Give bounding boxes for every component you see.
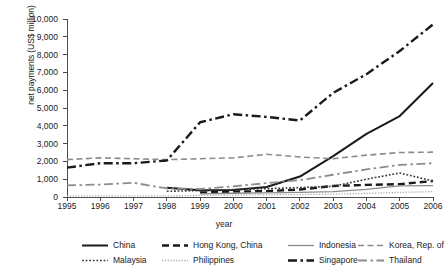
legend-swatch-icon <box>162 255 188 266</box>
legend-item-china[interactable]: China <box>82 239 135 252</box>
x-tick-label: 2002 <box>290 201 309 211</box>
x-tick-label: 2005 <box>390 201 409 211</box>
legend-item-malaysia[interactable]: Malaysia <box>82 254 147 267</box>
legend-swatch-icon <box>82 255 108 266</box>
series-line-singapore <box>67 24 433 167</box>
legend-item-philippines[interactable]: Philippines <box>162 254 234 267</box>
legend-swatch-icon <box>82 240 108 251</box>
legend-swatch-icon <box>358 240 384 251</box>
x-tick-label: 1998 <box>157 201 176 211</box>
legend-swatch-icon <box>162 240 188 251</box>
legend-swatch-icon <box>288 240 314 251</box>
legend-item-korea-rep-of[interactable]: Korea, Rep. of <box>358 239 444 252</box>
legend-label: Philippines <box>193 256 234 265</box>
legend-item-thailand[interactable]: Thailand <box>358 254 422 267</box>
legend-swatch-icon <box>358 255 384 266</box>
legend-item-indonesia[interactable]: Indonesia <box>288 239 356 252</box>
plot-area <box>0 0 448 272</box>
axes <box>63 19 433 201</box>
legend-label: Indonesia <box>319 241 356 250</box>
x-tick-label: 2003 <box>324 201 343 211</box>
legend-label: Malaysia <box>113 256 147 265</box>
x-tick-label: 1997 <box>124 201 143 211</box>
x-tick-label: 1995 <box>58 201 77 211</box>
series-lines <box>67 24 433 196</box>
legend-item-hong-kong-china[interactable]: Hong Kong, China <box>162 239 262 252</box>
x-axis-label: year <box>0 219 448 229</box>
x-tick-label: 2001 <box>257 201 276 211</box>
x-tick-label: 1996 <box>91 201 110 211</box>
series-line-korea-rep-of <box>67 152 433 159</box>
legend-swatch-icon <box>288 255 314 266</box>
legend-label: China <box>113 241 135 250</box>
legend-label: Thailand <box>389 256 422 265</box>
x-tick-label: 2004 <box>357 201 376 211</box>
legend-label: Hong Kong, China <box>193 241 262 250</box>
legend-item-singapore[interactable]: Singapore <box>288 254 358 267</box>
legend: ChinaHong Kong, ChinaIndonesiaKorea, Rep… <box>0 235 448 272</box>
legend-label: Korea, Rep. of <box>389 241 444 250</box>
legend-label: Singapore <box>319 256 358 265</box>
line-chart: net payments (US$ million) 01,0002,0003,… <box>0 0 448 272</box>
x-tick-label: 2006 <box>424 201 443 211</box>
x-tick-label: 1999 <box>191 201 210 211</box>
x-tick-label: 2000 <box>224 201 243 211</box>
